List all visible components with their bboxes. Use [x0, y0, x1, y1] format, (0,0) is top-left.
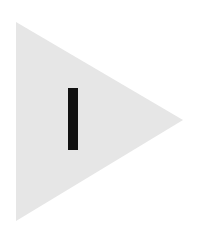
play-triangle-icon: [16, 22, 183, 221]
play-pause-button[interactable]: [0, 0, 198, 229]
pause-bar-icon: [68, 88, 78, 150]
play-pause-icon: [0, 0, 198, 229]
